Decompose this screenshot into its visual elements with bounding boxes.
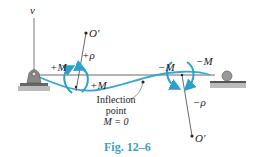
v-axis-label: v (30, 5, 35, 16)
moment-pos-right-label: +M (90, 80, 107, 91)
center-bottom-label: O′ (195, 133, 205, 144)
radius-pos-line (76, 33, 86, 91)
rho-pos-label: +ρ (82, 50, 95, 61)
center-top-label: O′ (89, 28, 99, 39)
figure-12-6: v O′ +ρ +M +M −M −M −ρ O′ Inflection poi… (0, 0, 258, 157)
beam-diagram (0, 0, 258, 157)
moment-pos-right-arrow (81, 68, 88, 92)
rho-neg-label: −ρ (193, 97, 206, 108)
elastic-curve (34, 72, 210, 91)
inflection-label: Inflection point M = 0 (88, 94, 144, 127)
moment-neg-right-label: −M (196, 56, 213, 67)
roller-support-icon (210, 71, 246, 88)
moment-neg-right-arrow (187, 62, 194, 87)
figure-caption: Fig. 12–6 (104, 140, 151, 155)
moment-neg-left-label: −M (158, 62, 175, 73)
moment-pos-left-label: +M (50, 62, 67, 73)
